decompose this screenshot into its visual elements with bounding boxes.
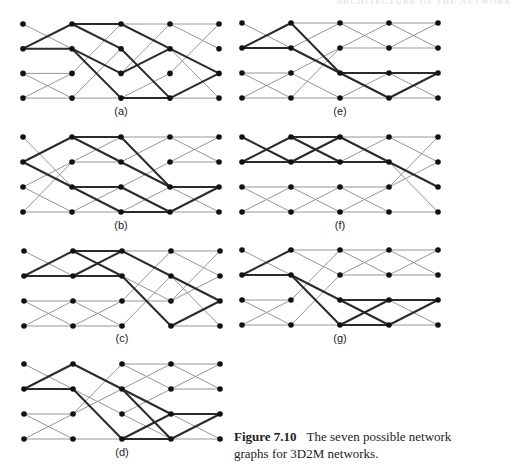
edge bbox=[171, 276, 220, 326]
node bbox=[167, 209, 173, 215]
network-graph-panel-g: (g) bbox=[239, 247, 441, 344]
node bbox=[288, 70, 294, 76]
node bbox=[337, 159, 343, 165]
node bbox=[216, 46, 222, 52]
node bbox=[20, 209, 26, 215]
panel-label: (g) bbox=[333, 332, 346, 344]
node bbox=[118, 209, 124, 215]
node bbox=[167, 95, 173, 101]
path-edge bbox=[291, 275, 340, 300]
edge bbox=[291, 73, 340, 98]
network-graph-panel-b: (b) bbox=[20, 134, 222, 231]
figure-caption: Figure 7.10The seven possible network gr… bbox=[234, 428, 462, 462]
node bbox=[119, 248, 125, 254]
node bbox=[386, 247, 392, 253]
node bbox=[337, 184, 343, 190]
node bbox=[118, 46, 124, 52]
path-edge bbox=[170, 73, 219, 98]
edge bbox=[23, 162, 72, 212]
node bbox=[21, 436, 27, 442]
node bbox=[435, 322, 441, 328]
node bbox=[239, 247, 245, 253]
node bbox=[435, 159, 441, 165]
node bbox=[288, 272, 294, 278]
node bbox=[20, 71, 26, 77]
node bbox=[386, 45, 392, 51]
node bbox=[288, 247, 294, 253]
node bbox=[239, 20, 245, 26]
node bbox=[70, 386, 76, 392]
node bbox=[21, 248, 27, 254]
node bbox=[435, 134, 441, 140]
node bbox=[435, 45, 441, 51]
node bbox=[337, 247, 343, 253]
node bbox=[21, 361, 27, 367]
node bbox=[168, 323, 174, 329]
edge bbox=[291, 250, 340, 275]
node bbox=[69, 21, 75, 27]
panel-label: (d) bbox=[115, 446, 128, 458]
node bbox=[288, 95, 294, 101]
node bbox=[239, 272, 245, 278]
node bbox=[119, 323, 125, 329]
node bbox=[167, 21, 173, 27]
path-edge bbox=[171, 301, 220, 326]
path-edge bbox=[73, 389, 122, 439]
path-edge bbox=[121, 49, 170, 74]
panel-label: (a) bbox=[114, 105, 127, 117]
node bbox=[337, 209, 343, 215]
path-edge bbox=[73, 364, 122, 389]
panel-label: (f) bbox=[335, 219, 345, 231]
node bbox=[337, 272, 343, 278]
node bbox=[288, 184, 294, 190]
node bbox=[69, 134, 75, 140]
node bbox=[119, 273, 125, 279]
node bbox=[337, 95, 343, 101]
edge bbox=[170, 24, 219, 73]
node bbox=[239, 45, 245, 51]
node bbox=[435, 247, 441, 253]
node bbox=[167, 46, 173, 52]
edge bbox=[291, 23, 340, 48]
node bbox=[337, 70, 343, 76]
panel-label: (b) bbox=[114, 219, 127, 231]
edge bbox=[73, 364, 122, 414]
edge bbox=[122, 251, 171, 301]
node bbox=[337, 297, 343, 303]
node bbox=[239, 70, 245, 76]
edge bbox=[389, 137, 438, 187]
panel-label: (c) bbox=[116, 332, 129, 344]
node bbox=[216, 209, 222, 215]
panel-label: (e) bbox=[333, 105, 346, 117]
node bbox=[21, 411, 27, 417]
node bbox=[168, 386, 174, 392]
node bbox=[435, 20, 441, 26]
node bbox=[118, 184, 124, 190]
node bbox=[435, 95, 441, 101]
node bbox=[70, 248, 76, 254]
node bbox=[69, 209, 75, 215]
node bbox=[239, 95, 245, 101]
edge bbox=[23, 137, 72, 187]
node bbox=[239, 159, 245, 165]
node bbox=[69, 95, 75, 101]
node bbox=[20, 46, 26, 52]
node bbox=[217, 361, 223, 367]
node bbox=[386, 184, 392, 190]
node bbox=[216, 159, 222, 165]
node bbox=[288, 45, 294, 51]
node bbox=[168, 361, 174, 367]
node bbox=[119, 386, 125, 392]
node bbox=[69, 71, 75, 77]
path-edge bbox=[122, 251, 171, 276]
node bbox=[217, 298, 223, 304]
node bbox=[435, 209, 441, 215]
node bbox=[118, 134, 124, 140]
node bbox=[20, 21, 26, 27]
node bbox=[288, 322, 294, 328]
node bbox=[217, 323, 223, 329]
node bbox=[435, 297, 441, 303]
node bbox=[118, 71, 124, 77]
node bbox=[216, 71, 222, 77]
